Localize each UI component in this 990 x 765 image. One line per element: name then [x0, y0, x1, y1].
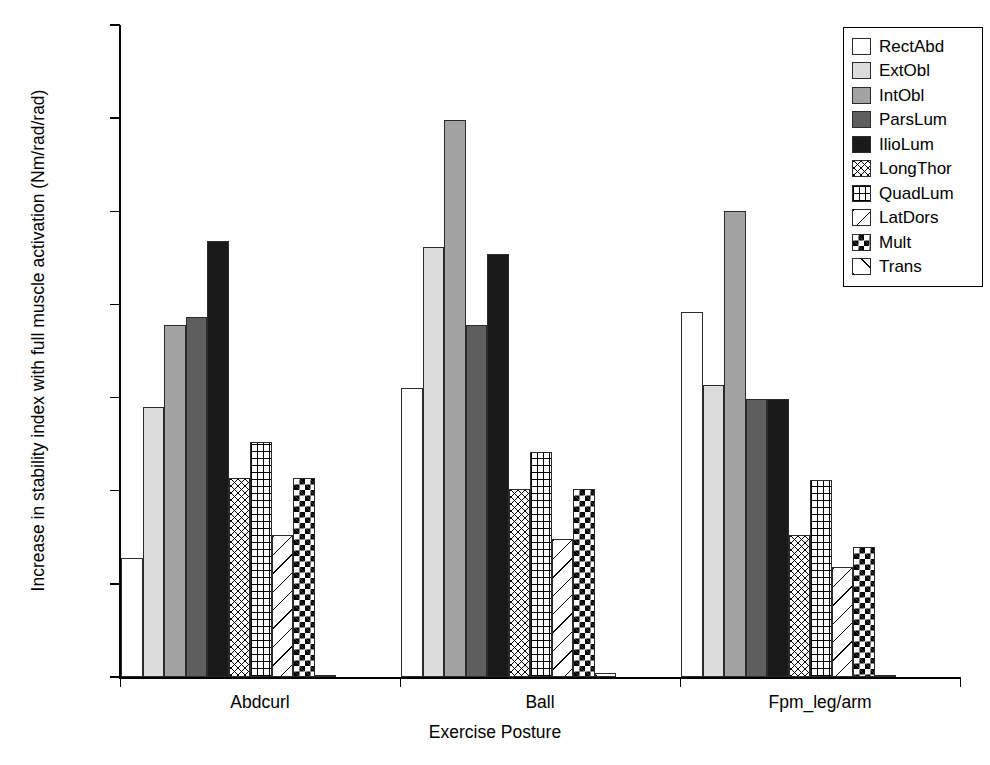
- bar-latdors-abdcurl: [272, 535, 294, 677]
- bar-intobl-abdcurl: [164, 325, 186, 677]
- legend-item-label: ExtObl: [879, 62, 930, 79]
- y-tick-mark: [110, 676, 120, 677]
- bar-group: [121, 25, 336, 677]
- legend-item-rectabd[interactable]: RectAbd: [852, 34, 976, 59]
- bar-extobl-ball: [423, 247, 445, 677]
- bar-group: [401, 25, 616, 677]
- legend-item-mult[interactable]: Mult: [852, 230, 976, 255]
- bar-rectabd-fpm-leg-arm: [681, 312, 703, 677]
- legend-item-label: ParsLum: [879, 111, 947, 128]
- legend-swatch-icon: [852, 234, 871, 251]
- y-tick-mark: [110, 583, 120, 584]
- legend-item-quadlum[interactable]: QuadLum: [852, 181, 976, 206]
- x-category-label: Abdcurl: [120, 692, 400, 713]
- x-tick-mark: [400, 677, 401, 687]
- y-tick-mark: [110, 211, 120, 212]
- legend: RectAbdExtOblIntOblParsLumIlioLumLongTho…: [843, 27, 983, 287]
- bar-latdors-fpm-leg-arm: [832, 567, 854, 677]
- legend-item-label: Mult: [879, 234, 911, 251]
- bar-extobl-fpm-leg-arm: [703, 385, 725, 677]
- bar-quadlum-abdcurl: [250, 442, 272, 677]
- x-category-label: Fpm_leg/arm: [680, 692, 960, 713]
- legend-swatch-icon: [852, 111, 871, 128]
- legend-item-label: Trans: [879, 258, 922, 275]
- legend-item-label: IntObl: [879, 87, 924, 104]
- bar-rectabd-ball: [401, 388, 423, 677]
- bar-quadlum-ball: [530, 452, 552, 677]
- bar-rectabd-abdcurl: [121, 558, 143, 677]
- bar-parslum-ball: [466, 325, 488, 677]
- x-tick-mark-end: [960, 677, 961, 687]
- legend-item-latdors[interactable]: LatDors: [852, 206, 976, 231]
- x-tick-mark: [680, 677, 681, 687]
- legend-swatch-icon: [852, 185, 871, 202]
- bar-trans-abdcurl: [315, 675, 337, 677]
- y-tick-mark: [110, 304, 120, 305]
- bar-longthor-abdcurl: [229, 478, 251, 677]
- legend-item-iliolum[interactable]: IlioLum: [852, 132, 976, 157]
- y-tick-mark: [110, 490, 120, 491]
- y-tick-mark: [110, 397, 120, 398]
- legend-swatch-icon: [852, 87, 871, 104]
- bar-longthor-fpm-leg-arm: [789, 535, 811, 677]
- legend-item-intobl[interactable]: IntObl: [852, 83, 976, 108]
- legend-item-label: RectAbd: [879, 38, 944, 55]
- y-tick-mark: [110, 117, 120, 118]
- x-axis-line: [119, 677, 960, 679]
- legend-item-label: IlioLum: [879, 136, 934, 153]
- bar-extobl-abdcurl: [143, 407, 165, 677]
- legend-item-longthor[interactable]: LongThor: [852, 157, 976, 182]
- legend-item-label: QuadLum: [879, 185, 954, 202]
- bar-trans-ball: [595, 673, 617, 677]
- bar-mult-ball: [573, 489, 595, 677]
- bar-iliolum-abdcurl: [207, 241, 229, 677]
- bar-mult-abdcurl: [293, 478, 315, 677]
- bar-trans-fpm-leg-arm: [875, 675, 897, 677]
- bar-quadlum-fpm-leg-arm: [810, 480, 832, 677]
- legend-item-trans[interactable]: Trans: [852, 255, 976, 280]
- legend-swatch-icon: [852, 209, 871, 226]
- y-axis-title: Increase in stability index with full mu…: [28, 11, 49, 671]
- x-tick-mark: [120, 677, 121, 687]
- legend-swatch-icon: [852, 62, 871, 79]
- bar-intobl-ball: [444, 120, 466, 677]
- bar-intobl-fpm-leg-arm: [724, 211, 746, 677]
- legend-swatch-icon: [852, 258, 871, 275]
- bar-latdors-ball: [552, 539, 574, 677]
- legend-swatch-icon: [852, 38, 871, 55]
- legend-item-label: LongThor: [879, 160, 952, 177]
- x-category-label: Ball: [400, 692, 680, 713]
- bar-mult-fpm-leg-arm: [853, 547, 875, 677]
- x-axis-title: Exercise Posture: [0, 722, 990, 743]
- bar-parslum-fpm-leg-arm: [746, 399, 768, 677]
- legend-item-parslum[interactable]: ParsLum: [852, 108, 976, 133]
- legend-swatch-icon: [852, 136, 871, 153]
- bar-parslum-abdcurl: [186, 317, 208, 677]
- bar-longthor-ball: [509, 489, 531, 677]
- bar-iliolum-ball: [487, 254, 509, 677]
- legend-swatch-icon: [852, 160, 871, 177]
- y-tick-mark: [110, 24, 120, 25]
- bar-iliolum-fpm-leg-arm: [767, 399, 789, 677]
- legend-item-label: LatDors: [879, 209, 939, 226]
- bar-chart: Increase in stability index with full mu…: [0, 0, 990, 765]
- plot-area: [120, 25, 960, 677]
- legend-item-extobl[interactable]: ExtObl: [852, 59, 976, 84]
